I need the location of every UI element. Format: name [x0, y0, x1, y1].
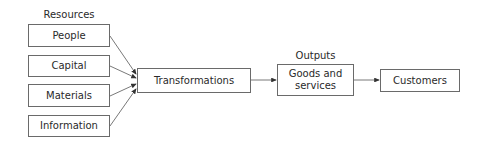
resource-label: Information: [40, 120, 98, 132]
transformations-box: Transformations: [137, 68, 251, 93]
resource-box-materials: Materials: [28, 84, 110, 107]
goods-label-line2: services: [295, 80, 336, 92]
goods-label-line1: Goods and: [289, 68, 343, 80]
transformations-label: Transformations: [154, 75, 234, 87]
resource-box-information: Information: [28, 115, 110, 137]
goods-services-box: Goods and services: [277, 64, 354, 96]
resources-heading: Resources: [28, 9, 110, 21]
customers-label: Customers: [393, 75, 447, 87]
arrow-people: [110, 36, 136, 74]
customers-box: Customers: [380, 69, 460, 92]
resource-label: People: [52, 30, 85, 42]
resource-label: Materials: [46, 90, 92, 102]
resource-label: Capital: [51, 60, 86, 72]
resource-box-people: People: [28, 24, 110, 47]
resource-box-capital: Capital: [28, 55, 110, 77]
outputs-heading: Outputs: [277, 50, 354, 62]
